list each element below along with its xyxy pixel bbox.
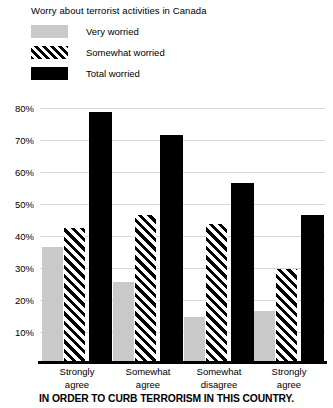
x-axis-category-label: Stronglyagree [36, 366, 118, 391]
bar [231, 183, 254, 362]
y-axis-tick-label: 40% [15, 231, 34, 242]
x-axis-line [38, 361, 327, 364]
x-axis-category-label-line: agree [36, 379, 118, 392]
bar-group [113, 100, 185, 362]
bar [254, 311, 275, 362]
x-axis-category-label-line: Strongly [36, 366, 118, 379]
x-axis-category-label-line: agree [248, 379, 330, 392]
y-axis-tick-label: 50% [15, 199, 34, 210]
y-axis-tick-label: 80% [15, 103, 34, 114]
bar [135, 215, 156, 362]
bar [301, 215, 324, 362]
legend-label-total-worried: Total worried [86, 68, 140, 79]
bar [206, 224, 227, 362]
chart-caption: IN ORDER TO CURB TERRORISM IN THIS COUNT… [0, 393, 333, 404]
y-axis-tick-label: 20% [15, 295, 34, 306]
chart-legend: Very worried Somewhat worried Total worr… [31, 21, 291, 84]
x-axis-category-label-line: Somewhat [107, 366, 189, 379]
legend-swatch-somewhat-worried-icon [31, 46, 68, 59]
x-axis-category-labels: StronglyagreeSomewhatagreeSomewhatdisagr… [40, 366, 325, 396]
x-axis-category-label: Stronglyagree [248, 366, 330, 391]
chart-title: Worry about terrorist activities in Cana… [31, 5, 207, 16]
legend-swatch-very-worried-icon [31, 25, 68, 38]
x-axis-category-label-line: agree [107, 379, 189, 392]
bar-group [184, 100, 256, 362]
legend-swatch-total-worried-icon [31, 67, 68, 80]
bar [276, 269, 297, 362]
x-axis-category-label-line: Strongly [248, 366, 330, 379]
bar-group [42, 100, 114, 362]
legend-label-somewhat-worried: Somewhat worried [86, 47, 165, 58]
y-axis-tick-label: 10% [15, 327, 34, 338]
bar [160, 135, 183, 362]
bar [42, 247, 63, 362]
y-axis-tick-label: 70% [15, 135, 34, 146]
bar [184, 317, 205, 362]
y-axis-tick-label: 60% [15, 167, 34, 178]
legend-item-total-worried: Total worried [31, 63, 291, 84]
legend-label-very-worried: Very worried [86, 26, 139, 37]
bar-chart: Worry about terrorist activities in Cana… [0, 0, 333, 408]
bar [89, 112, 112, 362]
plot-area [40, 100, 325, 364]
legend-item-very-worried: Very worried [31, 21, 291, 42]
y-axis-tick-label: 30% [15, 263, 34, 274]
bar-group [254, 100, 326, 362]
bar [64, 228, 85, 362]
y-axis-tick-labels: 10%20%30%40%50%60%70%80% [0, 100, 38, 364]
x-axis-category-label: Somewhatagree [107, 366, 189, 391]
legend-item-somewhat-worried: Somewhat worried [31, 42, 291, 63]
bar [113, 282, 134, 362]
